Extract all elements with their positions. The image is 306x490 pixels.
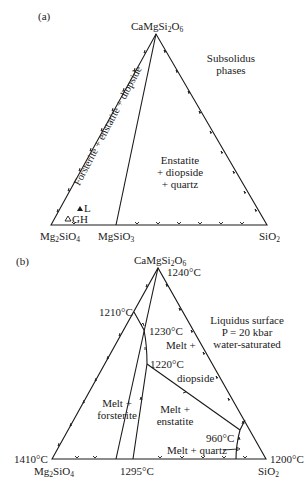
temp-left-corner: 1410°C	[14, 453, 48, 465]
temp-peritectic: 1220°C	[150, 358, 184, 370]
panel-a-label: (a)	[38, 10, 50, 22]
forsterite-enstatite-boundary	[133, 312, 147, 459]
apex-label-a: CaMgSi2O6	[131, 20, 183, 36]
field-enstatite: Melt +enstatite	[152, 403, 198, 427]
right-corner-label-a: SiO2	[259, 230, 280, 246]
panel-a-ticks	[57, 50, 257, 224]
temp-right-corner: 1200°C	[270, 453, 304, 465]
temp-enstatite-base: 1295°C	[120, 465, 154, 477]
left-corner-label-b: Mg2SiO4	[34, 465, 74, 481]
panel-b-label: (b)	[16, 255, 29, 267]
field-diopside-line1: Melt +	[166, 339, 196, 351]
mid-label-a: MgSiO3	[98, 230, 134, 246]
temp-peritectic-upper: 1230°C	[149, 325, 183, 337]
temp-eutectic: 960°C	[206, 432, 234, 444]
field-quartz: Melt + quartz	[167, 444, 227, 456]
field-diopside-line2: diopside	[177, 372, 214, 384]
point-gh-label: GH	[72, 213, 88, 225]
point-gh-open-triangle	[65, 216, 71, 221]
subsolidus-title: Subsolidusphases	[200, 52, 262, 76]
point-l-filled-triangle	[77, 206, 83, 211]
liquidus-title: Liquidus surfaceP = 20 kbarwater-saturat…	[206, 314, 288, 350]
temp-apex: 1240°C	[167, 266, 201, 278]
quartz-boundary	[236, 420, 245, 459]
left-corner-label-a: Mg2SiO4	[40, 230, 80, 246]
region-en-di-qz: Enstatite+ diopside+ quartz	[148, 154, 212, 190]
right-corner-label-b: SiO2	[258, 465, 279, 481]
field-forsterite: Melt +forsterite	[94, 397, 140, 421]
temp-fo-di: 1210°C	[99, 306, 133, 318]
